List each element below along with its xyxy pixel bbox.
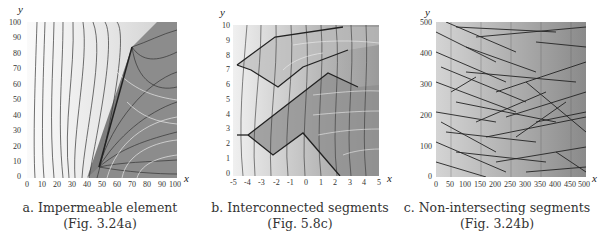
caption-c: c. Non-intersecting segments (Fig. 3.24b…: [396, 200, 598, 232]
x-axis-label: x: [387, 172, 392, 184]
x-axis-label: x: [184, 172, 189, 184]
caption-title: c. Non-intersecting segments: [396, 200, 598, 216]
caption-reference: (Fig. 5.8c): [200, 216, 400, 232]
caption-a: a. Impermeable element (Fig. 3.24a): [0, 200, 200, 232]
x-axis-label: x: [592, 172, 597, 184]
y-axis-label: y: [220, 6, 225, 18]
caption-b: b. Interconnected segments (Fig. 5.8c): [200, 200, 400, 232]
caption-reference: (Fig. 3.24b): [396, 216, 598, 232]
caption-reference: (Fig. 3.24a): [0, 216, 200, 232]
caption-title: a. Impermeable element: [0, 200, 200, 216]
caption-title: b. Interconnected segments: [200, 200, 400, 216]
plot-interconnected-segments: [233, 25, 379, 176]
y-axis-label: y: [18, 3, 23, 15]
plot-impermeable-element: [27, 22, 177, 178]
y-axis-label: y: [425, 6, 430, 18]
plot-non-intersecting-segments: [436, 22, 586, 177]
